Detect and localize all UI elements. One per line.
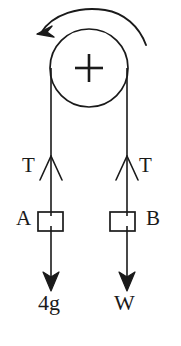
- left-weight-label: 4g: [38, 292, 60, 314]
- pulley-diagram: T T A B 4g W: [0, 0, 181, 346]
- right-weight-label: W: [114, 292, 135, 314]
- right-tension-label: T: [139, 155, 152, 176]
- left-weight-arrow: [43, 226, 59, 291]
- block-a-label: A: [16, 208, 31, 229]
- rotation-arc: [41, 9, 146, 45]
- block-b-label: B: [146, 208, 160, 229]
- right-weight-arrow: [119, 226, 135, 291]
- block-b: [110, 212, 135, 231]
- left-tension-label: T: [22, 155, 35, 176]
- counterclockwise-rotation-arrow: [37, 9, 146, 45]
- pulley-axle-plus-icon: [75, 54, 103, 82]
